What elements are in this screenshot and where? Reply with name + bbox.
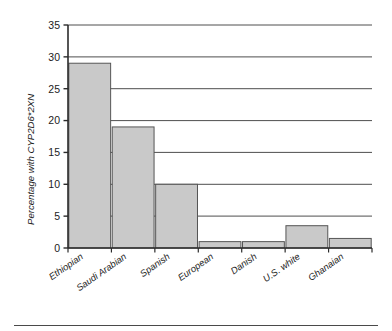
category-labels: EthiopianSaudi ArabianSpanishEuropeanDan… [47, 251, 346, 294]
bar-chart: 05101520253035 EthiopianSaudi ArabianSpa… [0, 0, 392, 331]
bar-ghanaian [329, 238, 371, 248]
y-tick-label-35: 35 [48, 19, 60, 31]
bar-danish [243, 242, 285, 248]
y-tick-label-0: 0 [54, 242, 60, 254]
bar-saudi-arabian [112, 127, 154, 248]
y-axis-title: Percentage with CYP2D6*2XN [25, 94, 36, 225]
y-tick-label-15: 15 [48, 146, 60, 158]
y-tick-label-25: 25 [48, 83, 60, 95]
y-tick-label-20: 20 [48, 114, 60, 126]
bar-spanish [156, 184, 198, 248]
y-tick-labels: 05101520253035 [48, 19, 60, 254]
y-tick-label-5: 5 [54, 210, 60, 222]
y-tick-label-10: 10 [48, 178, 60, 190]
category-label-spanish: Spanish [138, 251, 172, 279]
bars-group [69, 63, 371, 248]
bar-u-s-white [286, 226, 328, 248]
figure-container: 05101520253035 EthiopianSaudi ArabianSpa… [0, 0, 392, 331]
category-label-ghanaian: Ghanaian [306, 251, 346, 283]
category-label-u-s-white: U.S. white [261, 251, 302, 285]
bar-ethiopian [69, 63, 111, 248]
category-label-ethiopian: Ethiopian [47, 251, 85, 282]
category-label-danish: Danish [228, 251, 258, 277]
y-tick-label-30: 30 [48, 51, 60, 63]
category-label-european: European [176, 251, 216, 283]
bar-european [199, 242, 241, 248]
